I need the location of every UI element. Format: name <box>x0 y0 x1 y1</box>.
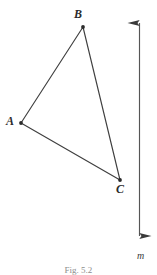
segment-ab <box>21 27 83 123</box>
vertex-label-a: A <box>6 115 14 127</box>
figure-canvas <box>0 0 157 275</box>
vertex-label-b: B <box>74 8 82 20</box>
vertex-dot-a <box>19 121 23 125</box>
triangle-abc <box>21 27 120 180</box>
vertex-dots <box>19 25 122 182</box>
segment-bc <box>83 27 120 180</box>
segment-ac <box>21 123 120 180</box>
geometry-figure: A B C m Fig. 5.2 <box>0 0 157 275</box>
figure-caption: Fig. 5.2 <box>0 266 157 275</box>
line-label-m: m <box>137 251 144 261</box>
vertex-dot-b <box>81 25 85 29</box>
vertex-label-c: C <box>116 183 124 195</box>
